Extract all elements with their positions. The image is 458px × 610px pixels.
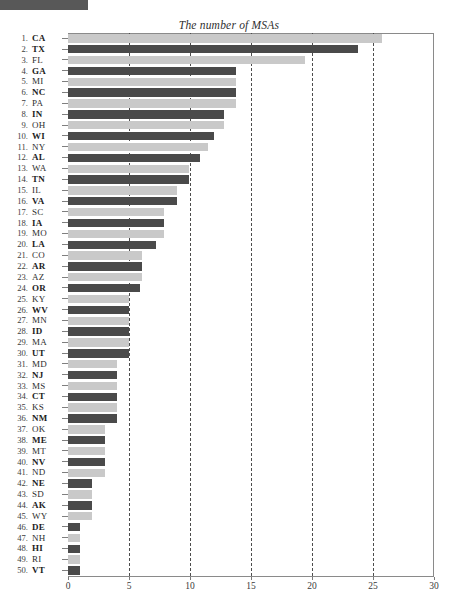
bar-row: 44.AK bbox=[0, 500, 458, 511]
row-state-label: LA bbox=[32, 239, 58, 250]
bar-row: 31.MD bbox=[0, 359, 458, 370]
row-state-label: CO bbox=[32, 250, 58, 261]
bar-row: 41.ND bbox=[0, 467, 458, 478]
row-state-label: WV bbox=[32, 305, 58, 316]
bar-row: 27.MN bbox=[0, 315, 458, 326]
row-state-label: OK bbox=[32, 424, 58, 435]
bar-row: 33.MS bbox=[0, 381, 458, 392]
bar bbox=[68, 555, 80, 563]
x-tick-mark-10 bbox=[190, 577, 191, 580]
bar-row: 15.IL bbox=[0, 185, 458, 196]
bar bbox=[68, 371, 117, 379]
row-rank-label: 46. bbox=[6, 522, 28, 533]
bar bbox=[68, 501, 92, 509]
bar bbox=[68, 284, 140, 292]
row-rank-label: 35. bbox=[6, 402, 28, 413]
bar-row: 16.VA bbox=[0, 196, 458, 207]
bar-row: 40.NV bbox=[0, 457, 458, 468]
row-rank-label: 31. bbox=[6, 359, 28, 370]
row-rank-label: 11. bbox=[6, 142, 28, 153]
row-state-label: HI bbox=[32, 543, 58, 554]
row-rank-label: 23. bbox=[6, 272, 28, 283]
row-state-label: NH bbox=[32, 533, 58, 544]
bar bbox=[68, 360, 117, 368]
bar bbox=[68, 295, 129, 303]
bar-row: 3.FL bbox=[0, 55, 458, 66]
row-rank-label: 28. bbox=[6, 326, 28, 337]
row-state-label: NJ bbox=[32, 370, 58, 381]
bar bbox=[68, 273, 142, 281]
row-state-label: DE bbox=[32, 522, 58, 533]
bar bbox=[68, 165, 189, 173]
x-tick-label-25: 25 bbox=[353, 581, 393, 591]
bar bbox=[68, 512, 92, 520]
row-rank-label: 10. bbox=[6, 131, 28, 142]
bar bbox=[68, 469, 105, 477]
row-state-label: OH bbox=[32, 120, 58, 131]
bar bbox=[68, 99, 236, 107]
bar-row: 25.KY bbox=[0, 294, 458, 305]
row-state-label: KY bbox=[32, 294, 58, 305]
bar-row: 42.NE bbox=[0, 478, 458, 489]
bar-row: 21.CO bbox=[0, 250, 458, 261]
row-state-label: SC bbox=[32, 207, 58, 218]
bar bbox=[68, 545, 80, 553]
x-tick-label-0: 0 bbox=[48, 581, 88, 591]
row-rank-label: 25. bbox=[6, 294, 28, 305]
row-state-label: ND bbox=[32, 467, 58, 478]
bar-row: 18.IA bbox=[0, 218, 458, 229]
bar-row: 30.UT bbox=[0, 348, 458, 359]
row-rank-label: 33. bbox=[6, 381, 28, 392]
bar-row: 43.SD bbox=[0, 489, 458, 500]
row-rank-label: 19. bbox=[6, 228, 28, 239]
bar bbox=[68, 566, 80, 574]
bar-row: 28.ID bbox=[0, 326, 458, 337]
row-rank-label: 3. bbox=[6, 55, 28, 66]
row-rank-label: 43. bbox=[6, 489, 28, 500]
row-rank-label: 18. bbox=[6, 218, 28, 229]
x-tick-mark-30 bbox=[434, 577, 435, 580]
bar-row: 36.NM bbox=[0, 413, 458, 424]
row-rank-label: 38. bbox=[6, 435, 28, 446]
row-state-label: MO bbox=[32, 228, 58, 239]
bar bbox=[68, 393, 117, 401]
bar bbox=[68, 251, 142, 259]
bar bbox=[68, 534, 80, 542]
row-state-label: PA bbox=[32, 98, 58, 109]
bar bbox=[68, 56, 305, 64]
bar bbox=[68, 132, 214, 140]
row-rank-label: 17. bbox=[6, 207, 28, 218]
row-rank-label: 20. bbox=[6, 239, 28, 250]
row-rank-label: 42. bbox=[6, 478, 28, 489]
row-state-label: WY bbox=[32, 511, 58, 522]
row-state-label: FL bbox=[32, 55, 58, 66]
row-state-label: WA bbox=[32, 163, 58, 174]
bar bbox=[68, 219, 164, 227]
row-state-label: ID bbox=[32, 326, 58, 337]
row-rank-label: 27. bbox=[6, 315, 28, 326]
x-tick-label-10: 10 bbox=[170, 581, 210, 591]
row-state-label: TN bbox=[32, 174, 58, 185]
bar bbox=[68, 458, 105, 466]
bar bbox=[68, 230, 164, 238]
bar-row: 47.NH bbox=[0, 533, 458, 544]
x-tick-mark-25 bbox=[373, 577, 374, 580]
bar-row: 46.DE bbox=[0, 522, 458, 533]
row-state-label: VA bbox=[32, 196, 58, 207]
bar bbox=[68, 447, 105, 455]
row-state-label: MD bbox=[32, 359, 58, 370]
bar-row: 38.ME bbox=[0, 435, 458, 446]
bar-row: 8.IN bbox=[0, 109, 458, 120]
row-state-label: UT bbox=[32, 348, 58, 359]
bar-row: 2.TX bbox=[0, 44, 458, 55]
x-tick-mark-0 bbox=[68, 577, 69, 580]
bar bbox=[68, 327, 129, 335]
bar-row: 7.PA bbox=[0, 98, 458, 109]
bar-row: 50.VT bbox=[0, 565, 458, 576]
row-rank-label: 49. bbox=[6, 554, 28, 565]
bar-row: 17.SC bbox=[0, 207, 458, 218]
x-tick-label-30: 30 bbox=[414, 581, 454, 591]
bar-row: 48.HI bbox=[0, 543, 458, 554]
row-state-label: CT bbox=[32, 391, 58, 402]
row-state-label: NV bbox=[32, 457, 58, 468]
